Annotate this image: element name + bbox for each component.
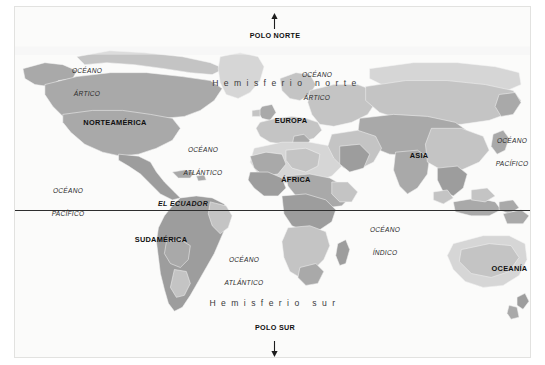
equator-line [15, 210, 530, 211]
landmass-oceania [447, 210, 529, 319]
map-frame: .land { fill:#a9a9a9; stroke:#f2f2f2; st… [14, 6, 531, 358]
landmass-north-america [23, 51, 264, 200]
south-pole-arrow-icon [270, 341, 279, 357]
north-pole-arrow-icon [270, 13, 279, 29]
landmass-south-america [156, 196, 232, 311]
world-map-graphic: .land { fill:#a9a9a9; stroke:#f2f2f2; st… [15, 7, 530, 357]
world-map-page: .land { fill:#a9a9a9; stroke:#f2f2f2; st… [0, 0, 545, 365]
